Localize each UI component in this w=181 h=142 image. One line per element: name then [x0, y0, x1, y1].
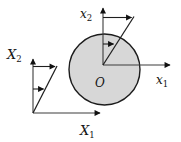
disk-rotation-diagram: X2 X1 x2 x1 O — [0, 0, 181, 142]
disk-figure: x2 x1 O — [69, 7, 170, 105]
body-x1-label: x1 — [156, 73, 168, 89]
body-x2-label: x2 — [80, 7, 92, 23]
origin-label: O — [95, 76, 105, 90]
disk — [69, 34, 140, 105]
space-x2-label: X2 — [6, 47, 22, 64]
diagram-canvas: X2 X1 x2 x1 O — [0, 0, 181, 142]
space-x1-label: X1 — [79, 123, 95, 140]
